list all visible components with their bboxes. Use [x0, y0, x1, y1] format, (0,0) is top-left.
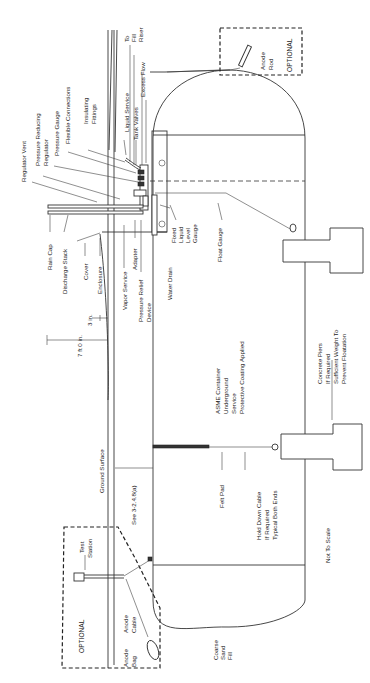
- label-anode-bag-2: Bag: [130, 655, 137, 667]
- float-icon: [290, 224, 296, 232]
- label-liquid-service: Liquid Service: [123, 93, 130, 132]
- label-sand: Sand: [219, 645, 226, 660]
- label-optional-top: OPTIONAL: [286, 38, 293, 72]
- label-anode-rod-2: Rod: [267, 58, 274, 70]
- felt-pad: [153, 445, 209, 448]
- optional-anode-rod-box: [167, 28, 302, 75]
- label-prevent-floatation: Prevent Floatation: [340, 333, 347, 384]
- lp-gas-underground-tank-diagram: To Fill Riser Excess Flow Tank Valves Li…: [0, 0, 370, 683]
- label-hold-down-cable: Hold Down Cable: [255, 491, 262, 540]
- label-excess-flow: Excess Flow: [139, 62, 146, 97]
- label-felt-pad: Felt Pad: [218, 484, 225, 508]
- label-pressure-gauge: Pressure Gauge: [53, 110, 60, 156]
- label-underground: Underground: [222, 377, 229, 414]
- label-insulating-fittings-2: Fittings: [90, 104, 97, 124]
- label-optional-bottom: OPTIONAL: [78, 619, 85, 653]
- label-anode-bag-1: Anode: [122, 649, 129, 667]
- label-adapter: Adapter: [131, 248, 138, 270]
- label-flexible-connections: Flexible Connections: [64, 87, 71, 144]
- label-asme-container: ASME Container: [214, 368, 221, 414]
- label-dim-3in: 3 in.: [86, 314, 93, 326]
- label-discharge-stack: Discharge Stack: [61, 248, 68, 294]
- label-tank-valves: Tank Valves: [132, 107, 139, 140]
- ground-surface-lines: [108, 30, 114, 668]
- cable-ring-icon: [272, 444, 278, 450]
- label-regulator: Regulator: [42, 139, 49, 166]
- label-service: Service: [230, 393, 237, 414]
- label-if-required-cable: If Required: [263, 509, 270, 540]
- label-water-drain: Water Drain: [166, 267, 173, 300]
- label-see-ref: See 3-2.4.8(a): [130, 485, 137, 525]
- label-coarse: Coarse: [212, 639, 219, 660]
- label-station: Station: [86, 538, 93, 558]
- label-ground-surface: Ground Surface: [98, 449, 105, 493]
- label-fixed: Fixed: [170, 227, 177, 243]
- label-level: Level: [184, 228, 191, 243]
- label-gauge: Gauge: [191, 224, 198, 243]
- label-enclosure: Enclosure: [96, 266, 103, 294]
- label-device: Device: [145, 303, 152, 322]
- label-regulator-vent: Regulator Vent: [20, 141, 27, 182]
- label-not-to-scale: Not To Scale: [324, 527, 331, 563]
- label-to-fill-riser-2: Fill: [130, 34, 137, 42]
- label-anode-rod-1: Anode: [259, 52, 266, 70]
- label-insulating-fittings-1: Insulating: [82, 97, 89, 124]
- label-test: Test: [78, 541, 85, 553]
- label-to-fill-riser-3: Riser: [137, 28, 144, 42]
- label-cover: Cover: [82, 263, 89, 280]
- label-rain-cap: Rain Cap: [46, 244, 53, 270]
- label-pressure-relief: Pressure Relief: [137, 279, 144, 322]
- label-anode-cable-2: Cable: [130, 616, 137, 633]
- label-pressure-reducing: Pressure Reducing: [34, 113, 41, 166]
- label-to-fill-riser: To: [123, 35, 130, 42]
- label-sufficient-weight: Sufficient Weight To: [332, 329, 339, 384]
- tank-container: [150, 70, 305, 629]
- label-float-gauge: Float Gauge: [216, 227, 223, 262]
- label-liquid: Liquid: [177, 226, 184, 243]
- label-concrete-piers: Concrete Piers: [316, 343, 323, 384]
- label-typical-both-ends: Typical Both Ends: [271, 490, 278, 540]
- label-vapor-service: Vapor Service: [121, 271, 128, 310]
- label-dim-7ft: 7 ft 0 in.: [76, 335, 83, 357]
- label-protective-coating: Protective Coating Applied: [238, 341, 245, 414]
- optional-anode-bag-box: [62, 527, 161, 668]
- label-fill: Fill: [226, 652, 233, 660]
- dimension-lines: [47, 315, 153, 468]
- label-if-required-piers: If Required: [324, 353, 331, 384]
- label-anode-cable-1: Anode: [122, 615, 129, 633]
- labels: To Fill Riser Excess Flow Tank Valves Li…: [20, 28, 347, 667]
